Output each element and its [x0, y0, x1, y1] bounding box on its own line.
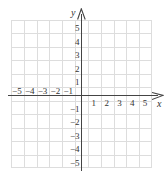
y-tick-label: −5 — [70, 158, 80, 167]
x-tick-label: 3 — [117, 99, 122, 108]
y-tick-label: −2 — [70, 118, 80, 127]
y-tick-label: 1 — [75, 78, 80, 87]
y-axis-line — [81, 14, 82, 171]
y-tick-label: −1 — [70, 104, 80, 113]
x-tick-label: −2 — [51, 87, 61, 96]
x-tick-label: 4 — [130, 99, 135, 108]
y-tick-label: 3 — [75, 51, 80, 60]
y-tick-label: 4 — [75, 37, 80, 46]
y-tick-label: 2 — [75, 64, 80, 73]
x-tick-label: 2 — [104, 99, 109, 108]
y-axis-label: y — [71, 8, 75, 18]
x-tick-label: 5 — [143, 99, 148, 108]
x-tick-label: −3 — [38, 87, 48, 96]
x-tick-label: −5 — [12, 87, 22, 96]
coordinate-plane-figure: y x −5−4−3−2−112345 54321−1−2−3−4−5 — [0, 0, 168, 180]
y-tick-label: 5 — [75, 24, 80, 33]
x-tick-label: 1 — [92, 99, 97, 108]
x-tick-label: −4 — [25, 87, 35, 96]
y-tick-label: −3 — [70, 131, 80, 140]
x-tick-label: −1 — [63, 87, 73, 96]
x-axis-label: x — [157, 99, 161, 109]
arrow-up-icon — [75, 8, 88, 20]
y-tick-label: −4 — [70, 145, 80, 154]
